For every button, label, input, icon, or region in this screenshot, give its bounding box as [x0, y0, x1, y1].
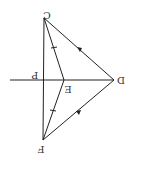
segment-CF	[43, 18, 44, 140]
label-C: C	[43, 10, 51, 21]
label-P: P	[31, 70, 38, 81]
tick-mark-EF	[50, 110, 56, 111]
geometry-diagram: C P E D F	[0, 0, 152, 170]
arrow-icon-DF	[76, 110, 81, 115]
tick-mark-CE	[51, 47, 57, 48]
label-F: F	[37, 144, 44, 155]
label-D: D	[117, 75, 125, 86]
label-E: E	[64, 84, 71, 95]
